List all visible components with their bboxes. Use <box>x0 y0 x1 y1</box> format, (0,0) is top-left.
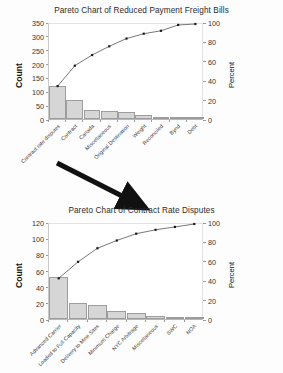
y-axis-tick-label: 0 <box>26 116 44 125</box>
plot-area <box>48 23 203 120</box>
x-axis-tick-mark <box>87 320 88 322</box>
y2-axis-tick-label: 40 <box>208 277 216 286</box>
x-axis-tick-mark <box>82 120 83 122</box>
y2-axis-tick-label: 0 <box>208 116 212 125</box>
x-axis-tick-mark <box>186 120 187 122</box>
y2-axis-tick-label: 20 <box>208 296 216 305</box>
y2-axis-tick-mark <box>203 120 206 121</box>
y-axis-tick-label: 20 <box>26 299 44 308</box>
y-axis-tick-label: 40 <box>26 283 44 292</box>
y2-axis-tick-mark <box>203 281 206 282</box>
y-axis-tick-label: 150 <box>26 74 44 83</box>
y2-axis-tick-label: 80 <box>208 38 216 47</box>
chart-title-top: Pareto Chart of Reduced Payment Freight … <box>0 6 283 15</box>
y-axis-tick-label: 350 <box>26 19 44 28</box>
y-axis-tick-label: 100 <box>26 235 44 244</box>
x-axis-tick-mark <box>65 120 66 122</box>
x-axis-tick-mark <box>48 320 49 322</box>
y2-axis-tick-label: 0 <box>208 316 212 325</box>
y2-axis-tick-mark <box>203 300 206 301</box>
plot-inner <box>49 224 202 319</box>
y2-axis-tick-label: 60 <box>208 257 216 266</box>
x-axis-tick-mark <box>48 120 49 122</box>
y-axis-tick-mark <box>46 23 49 24</box>
y-axis-tick-label: 60 <box>26 267 44 276</box>
y2-axis-tick-mark <box>203 320 206 321</box>
y-axis-tick-mark <box>46 239 49 240</box>
x-axis-tick-mark <box>134 120 135 122</box>
y-axis-tick-label: 50 <box>26 102 44 111</box>
y-axis-tick-mark <box>46 78 49 79</box>
x-axis-tick-mark <box>67 320 68 322</box>
x-axis-tick-mark <box>184 320 185 322</box>
y-axis-tick-label: 120 <box>26 219 44 228</box>
y-axis-tick-mark <box>46 287 49 288</box>
y2-axis-title: Percent <box>227 261 236 287</box>
y-axis-tick-mark <box>46 64 49 65</box>
y-axis-tick-label: 200 <box>26 60 44 69</box>
y2-axis-tick-label: 100 <box>208 219 220 228</box>
y-axis-tick-label: 0 <box>26 316 44 325</box>
y-axis-tick-mark <box>46 271 49 272</box>
x-axis-tick-mark <box>117 120 118 122</box>
plot-inner <box>49 24 202 119</box>
x-axis-tick-mark <box>164 320 165 322</box>
y2-axis-tick-label: 20 <box>208 96 216 105</box>
y2-axis-tick-mark <box>203 81 206 82</box>
y-axis-title: Count <box>14 63 24 88</box>
x-axis-tick-mark <box>106 320 107 322</box>
x-axis-tick-mark <box>145 320 146 322</box>
y-axis-tick-mark <box>46 92 49 93</box>
y2-axis-tick-mark <box>203 261 206 262</box>
y-axis-tick-mark <box>46 223 49 224</box>
y-axis-tick-label: 100 <box>26 88 44 97</box>
x-axis-tick-mark <box>169 120 170 122</box>
y-axis-tick-mark <box>46 36 49 37</box>
y2-axis-tick-mark <box>203 223 206 224</box>
plot-area <box>48 223 203 320</box>
y-axis-tick-label: 300 <box>26 32 44 41</box>
chart-body-top: 050100150200250300350020406080100CountPe… <box>0 15 283 165</box>
y-axis-tick-mark <box>46 106 49 107</box>
x-axis-tick-mark <box>100 120 101 122</box>
y2-axis-tick-label: 40 <box>208 77 216 86</box>
pareto-chart-top: Pareto Chart of Reduced Payment Freight … <box>0 6 283 165</box>
y2-axis-tick-mark <box>203 100 206 101</box>
y-axis-tick-mark <box>46 303 49 304</box>
cumulative-percent-line <box>49 224 204 321</box>
cumulative-percent-line <box>49 24 204 121</box>
y2-axis-tick-mark <box>203 23 206 24</box>
y2-axis-tick-label: 80 <box>208 238 216 247</box>
y2-axis-tick-mark <box>203 61 206 62</box>
y-axis-tick-label: 250 <box>26 46 44 55</box>
document-page: Pareto Chart of Reduced Payment Freight … <box>0 0 283 373</box>
x-axis-tick-mark <box>126 320 127 322</box>
y2-axis-title: Percent <box>227 61 236 87</box>
y2-axis-tick-mark <box>203 42 206 43</box>
y2-axis-tick-label: 60 <box>208 57 216 66</box>
chart-title-bottom: Pareto Chart of Contract Rate Disputes <box>0 206 283 215</box>
y-axis-tick-mark <box>46 50 49 51</box>
y-axis-title: Count <box>14 263 24 288</box>
y-axis-tick-label: 80 <box>26 251 44 260</box>
x-axis-tick-mark <box>151 120 152 122</box>
y2-axis-tick-mark <box>203 242 206 243</box>
chart-body-bottom: 020406080100120020406080100CountPercentA… <box>0 215 283 365</box>
y2-axis-tick-label: 100 <box>208 19 220 28</box>
y-axis-tick-mark <box>46 255 49 256</box>
pareto-chart-bottom: Pareto Chart of Contract Rate Disputes 0… <box>0 206 283 365</box>
